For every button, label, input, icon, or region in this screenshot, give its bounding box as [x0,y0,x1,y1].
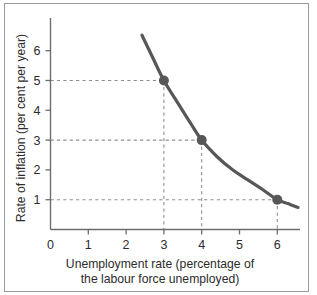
y-tick-label-5: 5 [34,74,41,88]
data-point-A [159,76,169,86]
y-tick-label-6: 6 [34,44,41,58]
data-point-C [272,195,282,205]
y-tick-label-1: 1 [34,193,41,207]
x-tick-label-5: 5 [236,238,243,252]
guide-lines-group [51,81,278,230]
x-tick-label-4: 4 [198,238,205,252]
x-axis-tick-labels: 0123456 [47,238,281,252]
curve-phillips-curve [142,35,298,207]
y-tick-label-3: 3 [34,134,41,148]
y-axis-title: Rate of inflation (per cent per year) [14,34,28,222]
data-point-markers-group [159,76,282,205]
x-tick-label-3: 3 [160,238,167,252]
x-tick-label-0: 0 [47,238,54,252]
data-point-B [197,135,207,145]
x-tick-label-6: 6 [274,238,281,252]
axes-group [46,18,301,235]
x-axis-title-line-1: Unemployment rate (percentage of [66,257,255,271]
phillips-curve-figure: 0123456 123456 Unemployment rate (percen… [0,0,317,295]
x-axis-title-line-2: the labour force unemployed) [81,272,240,286]
y-axis-tick-labels: 123456 [34,44,41,207]
y-tick-label-4: 4 [34,104,41,118]
x-tick-label-1: 1 [85,238,92,252]
x-tick-label-2: 2 [123,238,130,252]
y-tick-label-2: 2 [34,163,41,177]
phillips-curve-line [142,35,298,207]
chart-plot-area: 0123456 123456 Unemployment rate (percen… [0,0,317,295]
